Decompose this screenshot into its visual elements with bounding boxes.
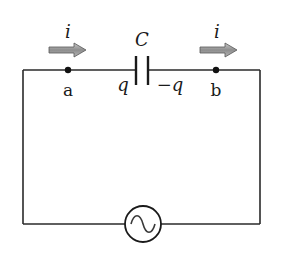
charge-positive-label: q — [117, 74, 129, 95]
charge-negative-label: −q — [157, 74, 184, 95]
capacitor — [136, 56, 148, 85]
current-label-left: i — [65, 21, 71, 42]
circuit-diagram: i i C q −q a b — [0, 0, 281, 276]
current-arrow-left-icon — [49, 43, 86, 57]
node-b-dot — [213, 67, 219, 73]
ac-source — [125, 206, 161, 242]
node-a-label: a — [63, 80, 73, 100]
node-a-dot — [65, 67, 71, 73]
current-arrow-right-icon — [200, 43, 237, 57]
capacitor-label: C — [135, 29, 149, 50]
node-b-label: b — [211, 80, 222, 100]
current-label-right: i — [214, 21, 220, 42]
wires — [23, 70, 260, 224]
